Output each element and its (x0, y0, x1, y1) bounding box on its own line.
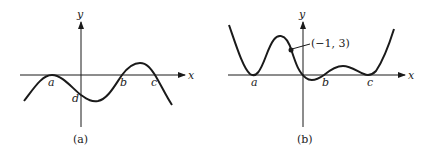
x-axis-label: x (188, 69, 195, 82)
annotation-point: (−1, 3) (311, 37, 350, 50)
label-d: d (72, 92, 79, 105)
curve-a (24, 63, 172, 105)
label-c: c (367, 76, 373, 89)
label-a: a (251, 76, 258, 89)
figure-canvas: y x a b c d (a) (−1, 3) y x a b c (b) (0, 0, 433, 156)
y-axis-label: y (298, 8, 306, 21)
graph-b: (−1, 3) y x a b c (b) (228, 8, 415, 146)
label-a: a (48, 76, 55, 89)
annotation-leader (292, 44, 310, 49)
caption-b: (b) (297, 133, 313, 146)
point-marker (289, 48, 294, 53)
label-b: b (120, 76, 127, 89)
caption-a: (a) (73, 133, 88, 146)
y-axis-label: y (76, 8, 84, 21)
curve-b (229, 25, 394, 80)
label-c: c (151, 76, 157, 89)
graph-a: y x a b c d (a) (20, 8, 195, 146)
x-axis-label: x (408, 69, 415, 82)
label-b: b (322, 76, 329, 89)
